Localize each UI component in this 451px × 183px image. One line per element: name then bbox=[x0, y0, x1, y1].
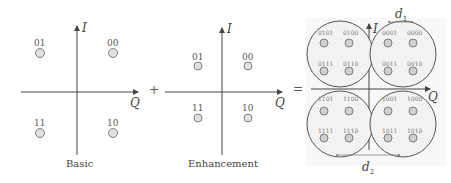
combined-label-0011: 0011 bbox=[382, 60, 397, 67]
d1-label: d1 bbox=[395, 7, 407, 23]
combined-point-1111 bbox=[320, 134, 328, 142]
combined-label-1110: 1110 bbox=[343, 127, 358, 134]
combined-label-1101: 1101 bbox=[318, 95, 333, 102]
d2-label: d2 bbox=[362, 160, 374, 176]
basic-point-01 bbox=[36, 49, 45, 58]
enhancement-label-11: 11 bbox=[192, 103, 203, 113]
combined-point-1110 bbox=[345, 134, 353, 142]
cluster-top-right bbox=[370, 21, 436, 87]
basic-label-00: 00 bbox=[107, 38, 118, 48]
combined-label-1011: 1011 bbox=[382, 127, 397, 134]
constellation-diagram bbox=[0, 0, 451, 183]
cluster-top-left bbox=[307, 21, 373, 87]
combined-point-0000 bbox=[409, 39, 417, 47]
enhancement-point-01 bbox=[194, 62, 202, 70]
combined-point-1011 bbox=[384, 134, 392, 142]
combined-point-0001 bbox=[384, 39, 392, 47]
basic-point-00 bbox=[109, 49, 118, 58]
combined-label-1100: 1100 bbox=[343, 95, 358, 102]
enhancement-point-00 bbox=[244, 62, 252, 70]
basic-caption: Basic bbox=[66, 158, 93, 169]
combined-point-0101 bbox=[320, 39, 328, 47]
combined-label-0111: 0111 bbox=[318, 60, 333, 67]
basic-label-01: 01 bbox=[34, 38, 45, 48]
combined-point-0011 bbox=[384, 67, 392, 75]
basic-point-11 bbox=[36, 129, 45, 138]
combined-point-1010 bbox=[409, 134, 417, 142]
cluster-bottom-right bbox=[370, 91, 436, 157]
cluster-bottom-left bbox=[307, 91, 373, 157]
enhancement-point-10 bbox=[244, 114, 252, 122]
combined-panel bbox=[305, 18, 447, 166]
combined-point-1001 bbox=[384, 107, 392, 115]
combined-label-1001: 1001 bbox=[382, 95, 397, 102]
combined-label-0000: 0000 bbox=[407, 29, 422, 36]
enhancement-panel bbox=[165, 28, 282, 155]
combined-i-axis-label: I bbox=[373, 22, 378, 36]
combined-label-0010: 0010 bbox=[407, 60, 422, 67]
combined-point-1000 bbox=[409, 107, 417, 115]
plus-operator: + bbox=[149, 83, 159, 97]
combined-label-1111: 1111 bbox=[318, 127, 333, 134]
combined-q-axis-label: Q bbox=[428, 90, 438, 104]
enhancement-label-10: 10 bbox=[242, 103, 253, 113]
combined-point-0111 bbox=[320, 67, 328, 75]
enhancement-q-axis-label: Q bbox=[275, 96, 285, 110]
enhancement-label-01: 01 bbox=[192, 52, 203, 62]
combined-point-1100 bbox=[345, 107, 353, 115]
basic-label-11: 11 bbox=[34, 118, 45, 128]
basic-point-10 bbox=[109, 129, 118, 138]
combined-label-0101: 0101 bbox=[318, 29, 333, 36]
enhancement-point-11 bbox=[194, 114, 202, 122]
basic-i-axis-label: I bbox=[82, 21, 87, 35]
combined-label-0100: 0100 bbox=[343, 29, 358, 36]
combined-label-1000: 1000 bbox=[407, 95, 422, 102]
combined-point-0010 bbox=[409, 67, 417, 75]
combined-label-0001: 0001 bbox=[382, 29, 397, 36]
combined-point-0110 bbox=[345, 67, 353, 75]
basic-label-10: 10 bbox=[107, 118, 118, 128]
enhancement-caption: Enhancement bbox=[188, 158, 258, 169]
enhancement-i-axis-label: I bbox=[227, 22, 232, 36]
combined-label-1010: 1010 bbox=[407, 127, 422, 134]
basic-q-axis-label: Q bbox=[130, 96, 140, 110]
enhancement-label-00: 00 bbox=[242, 52, 253, 62]
combined-point-1101 bbox=[320, 107, 328, 115]
combined-label-0110: 0110 bbox=[343, 60, 358, 67]
equals-operator: = bbox=[293, 82, 303, 96]
combined-point-0100 bbox=[345, 39, 353, 47]
